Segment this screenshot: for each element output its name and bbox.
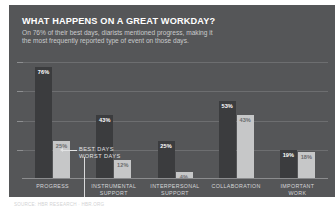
category-label-line: INTERPERSONAL <box>144 183 205 190</box>
category-label-line: IMPORTANT <box>267 183 328 190</box>
axis-tick <box>17 91 23 92</box>
category-label-line: COLLABORATION <box>206 183 267 190</box>
bar-worst-days[interactable]: 12% <box>114 160 131 178</box>
bar-worst-days[interactable]: 43% <box>237 115 254 178</box>
category-label-line: WORK <box>267 190 328 197</box>
header: WHAT HAPPENS ON A GREAT WORKDAY? On 76% … <box>22 16 322 46</box>
page-title: WHAT HAPPENS ON A GREAT WORKDAY? <box>22 16 322 27</box>
bar-value-label: 53% <box>219 103 236 109</box>
subtitle-text: On 76% of their best days, diarists ment… <box>22 29 217 46</box>
plot-area: 76%25%43%12%25%4%53%43%19%18% BEST DAYS … <box>22 62 328 179</box>
category-label-line: PROGRESS <box>22 183 83 190</box>
source-caption: SOURCE: HBR RESEARCH · HBR.ORG <box>14 202 104 207</box>
category-label-line: INSTRUMENTAL <box>83 183 144 190</box>
legend-item-worst-days: WORST DAYS <box>79 153 169 160</box>
category-label-3: COLLABORATION <box>206 183 267 190</box>
bar-worst-days[interactable]: 18% <box>298 152 315 178</box>
bar-best-days[interactable]: 19% <box>280 150 297 178</box>
axis-baseline <box>22 178 328 179</box>
category-label-0: PROGRESS <box>22 183 83 190</box>
chart-panel: WHAT HAPPENS ON A GREAT WORKDAY? On 76% … <box>9 5 335 197</box>
bar-best-days[interactable]: 53% <box>219 101 236 179</box>
bar-value-label: 76% <box>35 69 52 75</box>
bar-value-label: 43% <box>96 117 113 123</box>
bar-value-label: 19% <box>280 152 297 158</box>
legend-item-best-days: BEST DAYS <box>79 146 169 153</box>
axis-tick <box>17 121 23 122</box>
bar-best-days[interactable]: 76% <box>35 67 52 178</box>
category-axis-labels: PROGRESSINSTRUMENTALSUPPORTINTERPERSONAL… <box>22 183 328 197</box>
gridline <box>22 121 328 122</box>
axis-tick <box>17 150 23 151</box>
gridline <box>22 91 328 92</box>
category-label-1: INSTRUMENTALSUPPORT <box>83 183 144 196</box>
gridline <box>22 62 328 63</box>
axis-tick <box>17 62 23 63</box>
category-label-line: SUPPORT <box>144 190 205 197</box>
bar-value-label: 12% <box>114 162 131 168</box>
infographic-page: WHAT HAPPENS ON A GREAT WORKDAY? On 76% … <box>0 0 335 214</box>
bar-value-label: 43% <box>237 117 254 123</box>
category-label-4: IMPORTANTWORK <box>267 183 328 196</box>
category-label-line: SUPPORT <box>83 190 144 197</box>
legend: BEST DAYS WORST DAYS <box>79 146 169 161</box>
bar-worst-days[interactable]: 25% <box>53 141 70 178</box>
category-label-2: INTERPERSONALSUPPORT <box>144 183 205 196</box>
bar-value-label: 18% <box>298 154 315 160</box>
leader-arrow-icon <box>63 150 77 151</box>
